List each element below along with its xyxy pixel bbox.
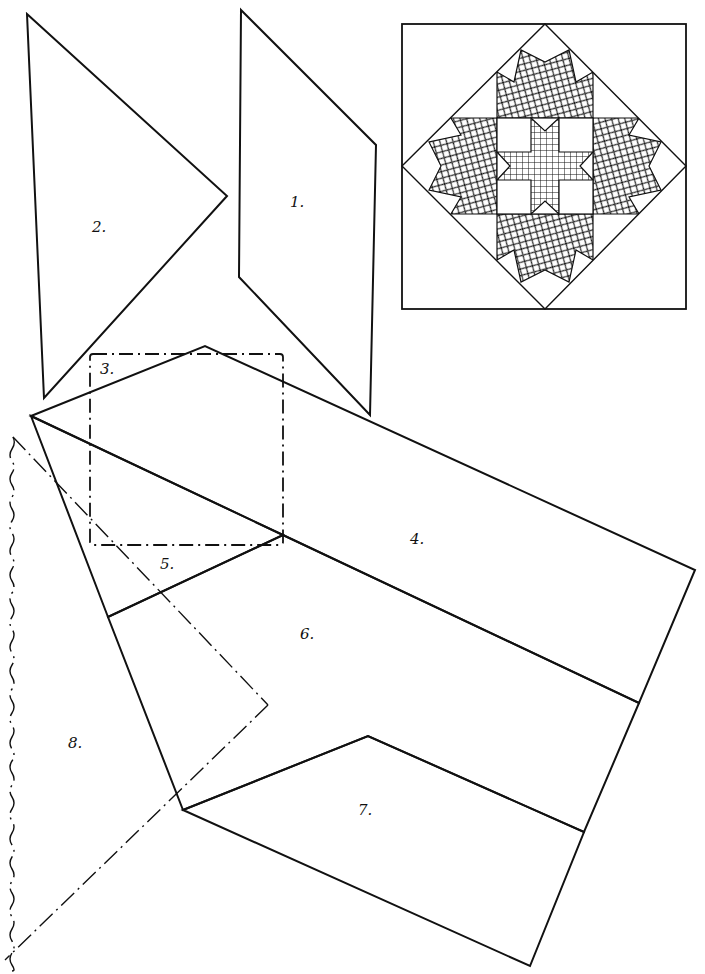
piece-4-label: 4.	[409, 530, 424, 548]
piece-8: 8.	[5, 437, 268, 971]
piece-3: 3.	[90, 354, 283, 545]
piece-7: 7.	[183, 736, 584, 966]
piece-6: 6.	[108, 535, 639, 832]
piece-4: 4.	[31, 346, 695, 703]
piece-2: 2.	[27, 14, 227, 398]
block-preview	[402, 24, 686, 309]
piece-2-label: 2.	[91, 218, 106, 236]
piece-8-label: 8.	[68, 734, 82, 752]
piece-5: 5.	[31, 416, 283, 617]
piece-5-label: 5.	[160, 555, 174, 573]
piece-1-label: 1.	[290, 193, 304, 211]
pattern-canvas: 2. 1. 8. 3. 4. 5. 6. 7.	[0, 0, 705, 974]
piece-7-label: 7.	[358, 801, 372, 819]
piece-3-label: 3.	[100, 360, 114, 378]
piece-6-label: 6.	[300, 625, 314, 643]
